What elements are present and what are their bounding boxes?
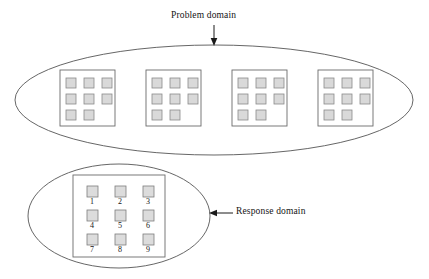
problem-matrix-1 [60, 70, 115, 126]
response-option-2-number: 2 [115, 198, 125, 206]
matrix-4-cell-4 [324, 94, 334, 104]
diagram-vector-layer [0, 0, 429, 279]
matrix-3-cell-5 [256, 94, 266, 104]
matrix-1-cell-6 [102, 94, 112, 104]
matrix-2-cell-1 [152, 78, 162, 88]
matrix-2-cell-7 [152, 110, 162, 120]
response-option-9-square[interactable] [143, 234, 154, 245]
matrix-4-cell-1 [324, 78, 334, 88]
problem-domain-label: Problem domain [171, 10, 236, 20]
matrix-3-cell-1 [238, 78, 248, 88]
matrix-1-cell-4 [66, 94, 76, 104]
matrix-3-cell-2 [256, 78, 266, 88]
matrix-2-cell-6 [188, 94, 198, 104]
matrix-4-cell-5 [342, 94, 352, 104]
response-option-6-square[interactable] [143, 210, 154, 221]
matrix-2-cell-4 [152, 94, 162, 104]
response-option-4-number: 4 [87, 222, 97, 230]
problem-domain-arrow [211, 25, 218, 46]
response-option-5-square[interactable] [115, 210, 126, 221]
matrix-3-cell-7 [238, 110, 248, 120]
matrix-4-cell-8 [342, 110, 352, 120]
matrix-4-cell-3 [360, 78, 370, 88]
response-option-9-number: 9 [143, 246, 153, 254]
matrix-4-cell-7 [324, 110, 334, 120]
matrix-2-cell-5 [170, 94, 180, 104]
response-domain-arrow [209, 210, 233, 217]
response-option-8-square[interactable] [115, 234, 126, 245]
matrix-1-cell-8 [84, 110, 94, 120]
response-option-7-number: 7 [87, 246, 97, 254]
response-domain-label: Response domain [236, 206, 306, 216]
matrix-1-cell-1 [66, 78, 76, 88]
response-option-5-number: 5 [115, 222, 125, 230]
response-option-6-number: 6 [143, 222, 153, 230]
raven-matrices-diagram: Problem domain Response domain 1 2 3 4 5… [0, 0, 429, 279]
response-option-3-square[interactable] [143, 186, 154, 197]
response-option-2-square[interactable] [115, 186, 126, 197]
matrix-2-cell-3 [188, 78, 198, 88]
problem-matrix-4 [318, 70, 373, 126]
matrix-3-cell-6 [274, 94, 284, 104]
matrix-2-cell-2 [170, 78, 180, 88]
matrix-3-cell-8 [256, 110, 266, 120]
response-option-1-square[interactable] [87, 186, 98, 197]
matrix-4-cell-2 [342, 78, 352, 88]
response-option-8-number: 8 [115, 246, 125, 254]
matrix-3-cell-4 [238, 94, 248, 104]
matrix-4-cell-6 [360, 94, 370, 104]
matrix-3-cell-3 [274, 78, 284, 88]
problem-matrix-2 [146, 70, 201, 126]
response-option-4-square[interactable] [87, 210, 98, 221]
matrix-2-cell-8 [170, 110, 180, 120]
response-option-3-number: 3 [143, 198, 153, 206]
response-option-1-number: 1 [87, 198, 97, 206]
problem-matrix-3 [232, 70, 287, 126]
matrix-1-cell-3 [102, 78, 112, 88]
matrix-1-cell-2 [84, 78, 94, 88]
matrix-1-cell-7 [66, 110, 76, 120]
response-option-7-square[interactable] [87, 234, 98, 245]
matrix-1-cell-5 [84, 94, 94, 104]
